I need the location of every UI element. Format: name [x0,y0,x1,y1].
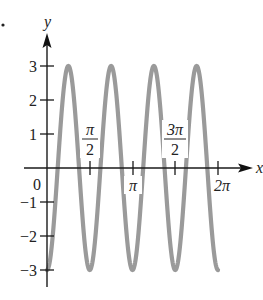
x-tick-3pi-over-2-num: 3π [166,121,184,138]
y-tick-neg2: −2 [20,228,37,245]
bullet-marker [1,23,4,26]
y-tick-1: 1 [29,126,37,143]
x-tick-pi-over-2-den: 2 [86,141,94,158]
x-axis-label: x [255,159,263,176]
x-tick-3pi-over-2-den: 2 [171,141,179,158]
x-tick-pi: π [124,176,142,194]
x-tick-2pi-label: 2π [214,177,231,194]
origin-label: 0 [33,176,41,193]
x-tick-2pi: 2π [214,177,231,194]
x-tick-pi-over-2-num: π [86,121,95,138]
x-tick-pi-label: π [129,177,138,194]
sinusoid-plot: y x 0 3 2 1 −1 −2 −3 π 2 π [0,0,263,300]
y-tick-neg1: −1 [20,194,37,211]
x-tick-3pi-over-2: 3π 2 [162,120,188,158]
x-tick-pi-over-2: π 2 [80,120,100,158]
y-tick-2: 2 [29,92,37,109]
y-tick-neg3: −3 [20,262,37,279]
y-tick-3: 3 [29,58,37,75]
y-axis-label: y [42,13,52,31]
